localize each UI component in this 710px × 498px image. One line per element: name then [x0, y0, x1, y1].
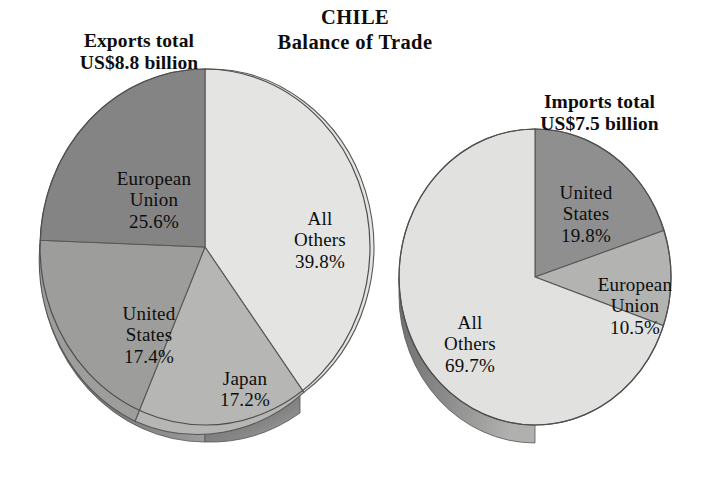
imports-others-name-line-2: Others [415, 333, 525, 354]
imports-others-name-line-1: All [415, 312, 525, 333]
exports-us-value: 17.4% [86, 346, 212, 367]
exports-us-name-line-1: United [86, 303, 212, 324]
title-line-1: CHILE [321, 6, 389, 28]
imports-us-name-line-2: States [530, 203, 642, 224]
imports-total-line-2: US$7.5 billion [540, 113, 658, 134]
imports-total-line-1: Imports total [544, 91, 655, 112]
imports-others-value: 69.7% [415, 355, 525, 376]
imports-label-united-states: United States 19.8% [530, 182, 642, 246]
exports-eu-value: 25.6% [88, 211, 220, 232]
exports-label-all-others: All Others 39.8% [268, 208, 372, 272]
imports-eu-name-line-2: Union [572, 295, 698, 316]
exports-label-japan: Japan 17.2% [190, 368, 300, 411]
exports-total-label: Exports total US$8.8 billion [34, 30, 244, 74]
exports-others-name-line-1: All [268, 208, 372, 229]
exports-eu-name-line-1: European [88, 168, 220, 189]
exports-total-line-2: US$8.8 billion [80, 52, 198, 73]
imports-us-value: 19.8% [530, 225, 642, 246]
imports-us-name-line-1: United [530, 182, 642, 203]
imports-total-label: Imports total US$7.5 billion [497, 91, 702, 135]
imports-eu-name-line-1: European [572, 274, 698, 295]
imports-label-european-union: European Union 10.5% [572, 274, 698, 338]
imports-eu-value: 10.5% [572, 317, 698, 338]
exports-us-name-line-2: States [86, 324, 212, 345]
exports-label-united-states: United States 17.4% [86, 303, 212, 367]
exports-others-name-line-2: Others [268, 229, 372, 250]
imports-label-all-others: All Others 69.7% [415, 312, 525, 376]
exports-others-value: 39.8% [268, 251, 372, 272]
exports-label-european-union: European Union 25.6% [88, 168, 220, 232]
exports-total-line-1: Exports total [84, 30, 194, 51]
exports-eu-name-line-2: Union [88, 189, 220, 210]
exports-japan-name: Japan [190, 368, 300, 389]
exports-japan-value: 17.2% [190, 389, 300, 410]
title-line-2: Balance of Trade [278, 31, 433, 53]
